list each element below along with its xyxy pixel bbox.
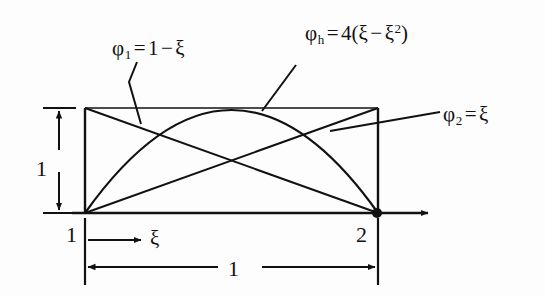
phi1-symbol: φ <box>112 36 124 60</box>
leader-line-phi2 <box>330 112 440 131</box>
phih-exponent: 2 <box>394 21 401 36</box>
phih-equals: = <box>324 21 341 45</box>
leader-line-phi1 <box>129 62 141 124</box>
phih-term-one: ξ <box>358 21 367 45</box>
phih-coefficient: 4 <box>341 21 352 45</box>
node-label-2: 2 <box>356 224 367 246</box>
phi1-rhs-first: 1 <box>148 36 159 60</box>
phi1-rhs-second: ξ <box>175 36 184 60</box>
vertical-dimension-label: 1 <box>36 158 47 180</box>
phi2-equals: = <box>462 102 479 126</box>
leader-line-phih <box>262 65 296 111</box>
node-2-marker <box>372 208 382 218</box>
phih-close-paren: ) <box>401 21 408 45</box>
phi2-symbol: φ <box>443 102 455 126</box>
phi1-equals: = <box>131 36 148 60</box>
horizontal-dimension-label: 1 <box>228 258 239 280</box>
phih-symbol: φ <box>305 21 317 45</box>
phih-operator: − <box>368 21 385 45</box>
label-phi1: φ1=1−ξ <box>112 38 185 61</box>
label-phih: φh=4(ξ−ξ2) <box>305 22 408 46</box>
node-label-1: 1 <box>66 224 77 246</box>
phi1-operator: − <box>158 36 175 60</box>
axis-variable-label: ξ <box>150 228 159 249</box>
phi2-rhs: ξ <box>479 102 488 126</box>
label-phi2: φ2=ξ <box>443 104 488 127</box>
phih-term-two: ξ <box>385 21 394 45</box>
figure-canvas: φ1=1−ξ φh=4(ξ−ξ2) φ2=ξ 1 1 2 ξ 1 <box>0 0 545 297</box>
shape-function-plot <box>0 0 545 297</box>
